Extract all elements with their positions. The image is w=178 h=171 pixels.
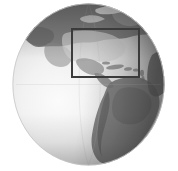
- handle-ne[interactable]: [137, 28, 140, 31]
- handle-nw[interactable]: [71, 28, 74, 31]
- handle-se[interactable]: [137, 75, 140, 78]
- handle-sw[interactable]: [71, 75, 74, 78]
- selection-rectangle[interactable]: [71, 28, 140, 78]
- globe-viewport: Earth globe, Western Hemisphere Grayscal…: [0, 0, 178, 171]
